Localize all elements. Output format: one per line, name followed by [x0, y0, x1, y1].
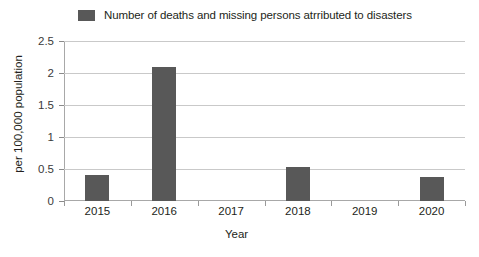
- plot-area: [64, 41, 465, 201]
- x-axis-tick: [465, 201, 466, 206]
- y-axis-title: per 100,000 population: [12, 34, 24, 194]
- bar-slot: [198, 41, 265, 201]
- y-axis-label: 1.5: [38, 99, 54, 111]
- bar-slot: [131, 41, 198, 201]
- legend-label: Number of deaths and missing persons atr…: [104, 9, 412, 21]
- x-axis-label: 2015: [64, 205, 131, 217]
- y-axis-label: 2: [48, 67, 54, 79]
- x-axis-title: Year: [64, 228, 409, 240]
- bar-chart: Number of deaths and missing persons atr…: [0, 0, 479, 257]
- legend-swatch-icon: [78, 10, 95, 21]
- bar-slot: [398, 41, 465, 201]
- bar: [420, 177, 444, 201]
- x-axis-label: 2016: [131, 205, 198, 217]
- x-axis-label: 2019: [331, 205, 398, 217]
- x-axis-label: 2018: [264, 205, 331, 217]
- bar: [152, 67, 176, 201]
- bar-slot: [331, 41, 398, 201]
- chart-legend: Number of deaths and missing persons atr…: [78, 9, 412, 21]
- y-axis-label: 0: [48, 195, 54, 207]
- bar-slot: [264, 41, 331, 201]
- x-axis-label: 2017: [198, 205, 265, 217]
- bar: [85, 175, 109, 201]
- y-axis-label: 2.5: [38, 35, 54, 47]
- x-axis-label: 2020: [398, 205, 465, 217]
- y-axis-label: 0.5: [38, 163, 54, 175]
- bar-series: [64, 41, 465, 201]
- y-axis-label: 1: [48, 131, 54, 143]
- bar: [286, 167, 310, 201]
- bar-slot: [64, 41, 131, 201]
- x-axis-labels: 201520162017201820192020: [64, 205, 465, 217]
